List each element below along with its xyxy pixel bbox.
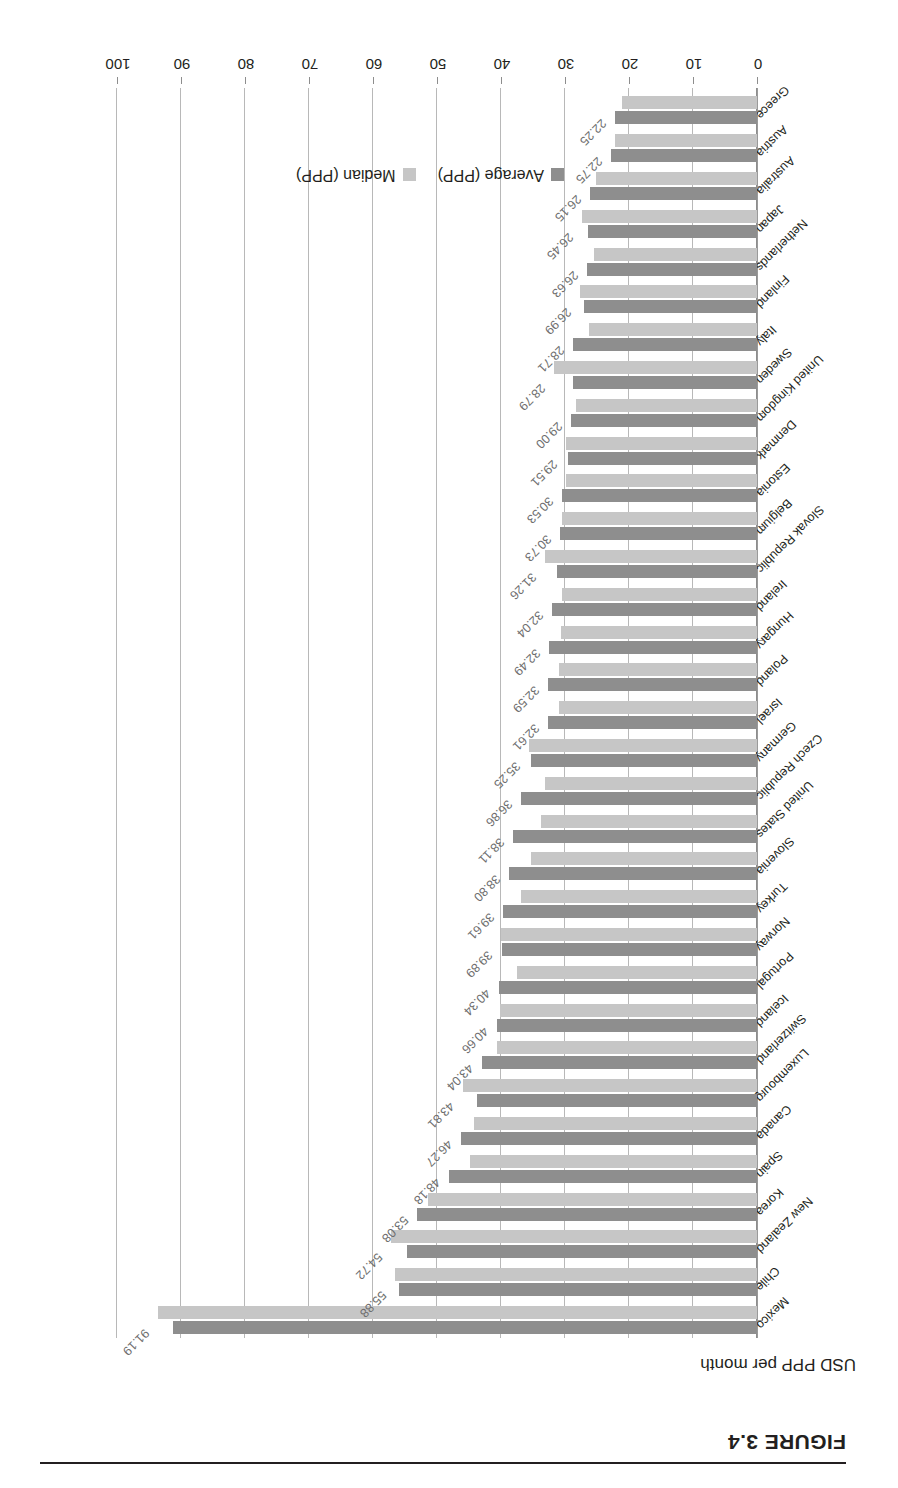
value-axis-tick bbox=[373, 77, 374, 84]
bar-median bbox=[594, 248, 757, 261]
bar-row: Korea53.08 bbox=[117, 1187, 757, 1225]
bar-row: Turkey39.61 bbox=[117, 884, 757, 922]
bar-row: Poland32.59 bbox=[117, 658, 757, 696]
figure-caption: FIGURE 3.4 bbox=[728, 1430, 846, 1454]
bar-row: Norway39.89 bbox=[117, 922, 757, 960]
bar-median bbox=[566, 437, 757, 450]
bar-row: Germany35.25 bbox=[117, 733, 757, 771]
value-axis-tick-label: 30 bbox=[558, 56, 575, 73]
category-label: Israel bbox=[753, 696, 785, 728]
bar-row: Portugal40.34 bbox=[117, 960, 757, 998]
bar-row: Switzerland43.04 bbox=[117, 1036, 757, 1074]
legend-swatch-average-icon bbox=[551, 169, 564, 182]
category-label: Japan bbox=[753, 202, 787, 236]
figure-caption-rule bbox=[40, 1462, 846, 1464]
bar-row: Japan26.45 bbox=[117, 204, 757, 242]
value-axis-tick bbox=[757, 77, 758, 84]
bar-average bbox=[573, 376, 757, 389]
value-axis-tick bbox=[501, 77, 502, 84]
value-axis-tick-label: 50 bbox=[430, 56, 447, 73]
bar-median bbox=[545, 550, 757, 563]
category-label: Portugal bbox=[753, 949, 796, 992]
bar-row: Denmark29.51 bbox=[117, 431, 757, 469]
bar-row: Hungary32.49 bbox=[117, 620, 757, 658]
bar-row: Finland26.99 bbox=[117, 280, 757, 318]
rotated-figure-content: FIGURE 3.4 USD PPP per month Mexico91.19… bbox=[0, 0, 898, 1488]
bar-row: Mexico91.19 bbox=[117, 1300, 757, 1338]
bar-median bbox=[463, 1079, 757, 1092]
bar-row: Italy28.71 bbox=[117, 317, 757, 355]
bar-row: Iceland40.66 bbox=[117, 998, 757, 1036]
bar-median bbox=[470, 1155, 757, 1168]
category-label: Korea bbox=[753, 1185, 786, 1218]
bar-row: Slovak Republic31.26 bbox=[117, 544, 757, 582]
bar-value-label: 91.19 bbox=[120, 1326, 152, 1358]
bar-median bbox=[531, 852, 757, 865]
bar-chart: USD PPP per month Mexico91.19Chile55.88N… bbox=[34, 22, 864, 1402]
bar-median bbox=[596, 172, 757, 185]
category-label: Italy bbox=[753, 323, 779, 349]
bar-average bbox=[548, 678, 757, 691]
bar-row: United States38.11 bbox=[117, 809, 757, 847]
bar-median bbox=[521, 890, 757, 903]
value-axis-tick bbox=[245, 77, 246, 84]
bar-median bbox=[562, 588, 757, 601]
bar-average bbox=[590, 187, 757, 200]
legend-label-average: Average (PPP) bbox=[438, 166, 544, 184]
bar-average bbox=[497, 1019, 757, 1032]
bar-median bbox=[391, 1230, 757, 1243]
bar-median bbox=[395, 1268, 757, 1281]
bar-median bbox=[497, 1041, 757, 1054]
value-axis-tick-label: 20 bbox=[622, 56, 639, 73]
bar-average bbox=[611, 149, 757, 162]
category-label: Australia bbox=[753, 154, 797, 198]
category-label: Denmark bbox=[753, 417, 799, 463]
bar-average bbox=[531, 754, 757, 767]
bar-median bbox=[582, 210, 757, 223]
bar-average bbox=[588, 225, 757, 238]
bar-row: Israel32.61 bbox=[117, 695, 757, 733]
category-label: Chile bbox=[753, 1264, 783, 1294]
bar-average bbox=[461, 1132, 757, 1145]
bar-median bbox=[559, 663, 757, 676]
bar-average bbox=[509, 867, 757, 880]
bar-median bbox=[545, 777, 757, 790]
bar-average bbox=[477, 1094, 757, 1107]
value-axis-tick bbox=[117, 77, 118, 84]
bar-row: New Zealand54.72 bbox=[117, 1225, 757, 1263]
value-axis-tick bbox=[437, 77, 438, 84]
bar-average bbox=[407, 1245, 757, 1258]
bar-row: Greece22.25 bbox=[117, 91, 757, 129]
bar-median bbox=[576, 399, 757, 412]
value-axis-tick bbox=[565, 77, 566, 84]
bar-median bbox=[500, 1004, 757, 1017]
legend-item-average: Average (PPP) bbox=[438, 166, 564, 184]
value-axis-tick-label: 60 bbox=[366, 56, 383, 73]
bar-median bbox=[589, 323, 757, 336]
bar-median bbox=[566, 474, 757, 487]
value-axis-tick-label: 10 bbox=[686, 56, 703, 73]
legend-item-median: Median (PPP) bbox=[296, 166, 416, 184]
bar-row: Czech Republic36.86 bbox=[117, 771, 757, 809]
bar-average bbox=[568, 452, 757, 465]
bar-average bbox=[521, 792, 757, 805]
value-axis-tick-label: 90 bbox=[174, 56, 191, 73]
value-axis-tick bbox=[693, 77, 694, 84]
bar-average bbox=[499, 981, 757, 994]
bar-average bbox=[562, 489, 757, 502]
category-label: United Kingdom bbox=[753, 352, 826, 425]
bar-average bbox=[587, 263, 757, 276]
bar-average bbox=[449, 1170, 757, 1183]
bar-average bbox=[552, 603, 757, 616]
bar-median bbox=[615, 134, 757, 147]
bar-median bbox=[501, 928, 757, 941]
category-label: Poland bbox=[753, 652, 790, 689]
bar-average bbox=[399, 1283, 757, 1296]
value-axis-tick-label: 80 bbox=[238, 56, 255, 73]
category-label: Slovenia bbox=[753, 835, 797, 879]
bar-rows: Mexico91.19Chile55.88New Zealand54.72Kor… bbox=[117, 88, 757, 1338]
category-label: Greece bbox=[753, 84, 792, 123]
category-label: Czech Republic bbox=[753, 731, 825, 803]
bar-average bbox=[571, 414, 757, 427]
bar-median bbox=[529, 739, 757, 752]
